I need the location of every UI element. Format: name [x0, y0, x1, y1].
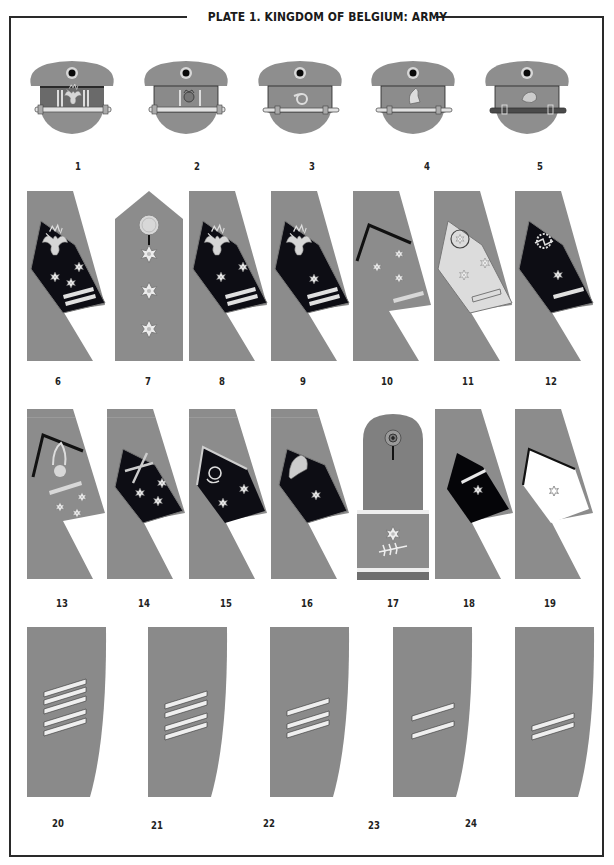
collar-patch-19: [515, 409, 597, 581]
item-number: 23: [361, 820, 387, 831]
plate-title: PLATE 1. KINGDOM OF BELGIUM: ARMY: [208, 9, 414, 24]
item-number: 4: [414, 161, 440, 172]
cap-item-3: [255, 56, 347, 138]
sleeve-chevrons-20: [27, 627, 109, 799]
sleeve-chevrons-22: [270, 627, 352, 799]
item-number: 24: [458, 818, 484, 829]
item-number: 12: [538, 376, 564, 387]
item-number: 11: [455, 376, 481, 387]
collar-patch-11: [434, 191, 516, 363]
collar-patch-14: [107, 409, 189, 581]
item-number: 15: [213, 598, 239, 609]
item-number: 9: [290, 376, 316, 387]
item-number: 10: [374, 376, 400, 387]
item-number: 21: [144, 820, 170, 831]
item-number: 13: [49, 598, 75, 609]
collar-patch-8: [189, 191, 271, 363]
cap-item-1: [27, 56, 119, 138]
item-number: 19: [537, 598, 563, 609]
shoulder-strap-7: [115, 191, 185, 363]
cap-item-4: [368, 56, 460, 138]
shoulder-strap-17: [357, 410, 429, 582]
sleeve-chevrons-24: [515, 627, 597, 799]
sleeve-chevrons-23: [393, 627, 475, 799]
item-number: 20: [45, 818, 71, 829]
item-number: 6: [45, 376, 71, 387]
item-number: 14: [131, 598, 157, 609]
collar-patch-6: [27, 191, 109, 363]
collar-patch-13: [27, 409, 109, 581]
cap-item-5: [482, 56, 574, 138]
collar-patch-9: [271, 191, 353, 363]
collar-patch-10: [353, 191, 435, 363]
collar-patch-15: [189, 409, 271, 581]
collar-patch-12: [515, 191, 597, 363]
item-number: 8: [209, 376, 235, 387]
collar-patch-16: [271, 409, 353, 581]
item-number: 18: [456, 598, 482, 609]
item-number: 2: [184, 161, 210, 172]
sleeve-chevrons-21: [148, 627, 230, 799]
item-number: 7: [135, 376, 161, 387]
item-number: 22: [256, 818, 282, 829]
item-number: 1: [65, 161, 91, 172]
item-number: 3: [299, 161, 325, 172]
collar-patch-18: [435, 409, 517, 581]
item-number: 16: [294, 598, 320, 609]
item-number: 17: [380, 598, 406, 609]
cap-item-2: [141, 56, 233, 138]
item-number: 5: [527, 161, 553, 172]
